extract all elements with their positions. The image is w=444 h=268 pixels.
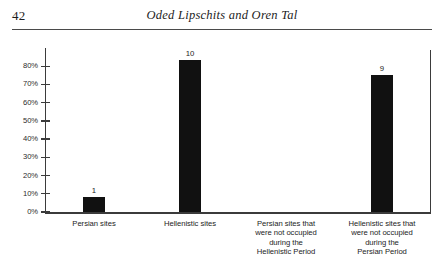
x-axis-category-label-line: Hellenistic Period [238, 247, 334, 256]
bar-value-label: 10 [186, 49, 195, 58]
header-divider [12, 29, 432, 30]
x-axis-category-label: Persian sites [46, 219, 142, 228]
x-axis-category-label-line: were not occupied [334, 228, 430, 237]
x-axis-category-label: Hellenistic sites thatwere not occupiedd… [334, 219, 430, 257]
bar-value-label: 1 [92, 186, 96, 195]
x-axis-category-label-line: were not occupied [238, 228, 334, 237]
bar-group[interactable]: Persian sites thatwere not occupieddurin… [238, 34, 334, 268]
bar-group[interactable]: 10Hellenistic sites [142, 34, 238, 268]
x-axis-category-label-line: during the [238, 238, 334, 247]
bar-group[interactable]: 9Hellenistic sites thatwere not occupied… [334, 34, 430, 268]
page-header: 42 Oded Lipschits and Oren Tal [0, 0, 444, 34]
x-axis-category-label-line: Hellenistic sites [142, 219, 238, 228]
x-axis-category-label-line: Persian sites that [238, 219, 334, 228]
x-axis-category-label-line: Hellenistic sites that [334, 219, 430, 228]
bar-value-label: 9 [380, 64, 384, 73]
x-axis-category-label-line: during the [334, 238, 430, 247]
bar-chart: 0%10%20%30%40%50%60%70%80% 1Persian site… [0, 34, 444, 268]
bar[interactable] [179, 60, 201, 212]
x-axis-category-label-line: Persian Period [334, 247, 430, 256]
running-head-title: Oded Lipschits and Oren Tal [0, 8, 444, 23]
x-axis-category-label: Hellenistic sites [142, 219, 238, 228]
bar[interactable] [83, 197, 105, 212]
bar-group[interactable]: 1Persian sites [46, 34, 142, 268]
x-axis-category-label: Persian sites thatwere not occupieddurin… [238, 219, 334, 257]
x-axis-category-label-line: Persian sites [46, 219, 142, 228]
bar-series: 1Persian sites10Hellenistic sitesPersian… [0, 34, 444, 268]
bar[interactable] [371, 75, 393, 212]
